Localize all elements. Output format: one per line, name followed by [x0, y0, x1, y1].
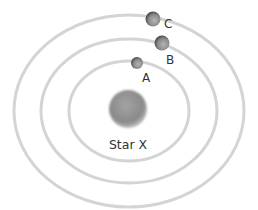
planet-a	[131, 57, 143, 69]
solar-system-diagram: Star X C B A	[0, 0, 258, 210]
planet-c-label: C	[164, 17, 172, 31]
planet-b	[155, 36, 170, 51]
star-label: Star X	[109, 137, 148, 152]
planet-b-label: B	[166, 53, 174, 67]
star-x	[109, 90, 147, 128]
planet-a-label: A	[142, 71, 151, 85]
planet-c	[146, 12, 161, 27]
